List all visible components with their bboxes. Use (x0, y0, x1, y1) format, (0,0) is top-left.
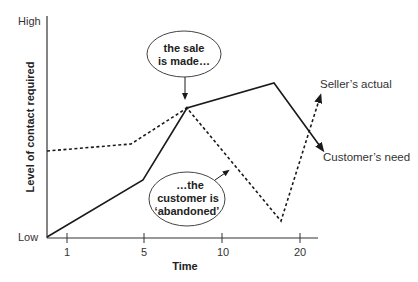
bubble-abandoned-line2: customer is (157, 192, 219, 204)
x-tick-label-5: 5 (141, 246, 147, 258)
bubble-abandoned-line1: …the (176, 179, 204, 191)
bubble-sale-line1: the sale (164, 42, 205, 54)
y-axis-high-label: High (18, 15, 41, 27)
seller-actual-label: Seller’s actual (320, 78, 392, 90)
x-axis-title: Time (172, 260, 197, 272)
customer-need-label: Customer’s need (323, 151, 410, 163)
y-axis-low-label: Low (18, 231, 38, 243)
sale-point (185, 106, 188, 109)
x-tick-label-1: 1 (64, 246, 70, 258)
annotation-bubble-sale (147, 31, 221, 77)
contact-level-diagram: 1 5 10 20 High Low Level of contact requ… (0, 0, 418, 282)
bubble-sale-line2: is made… (158, 55, 210, 67)
bubble-abandoned-pointer (215, 171, 228, 180)
y-axis-title: Level of contact required (24, 62, 36, 193)
x-tick-label-20: 20 (294, 246, 306, 258)
x-tick-label-10: 10 (217, 246, 229, 258)
bubble-abandoned-line3: ‘abandoned’ (155, 205, 220, 217)
